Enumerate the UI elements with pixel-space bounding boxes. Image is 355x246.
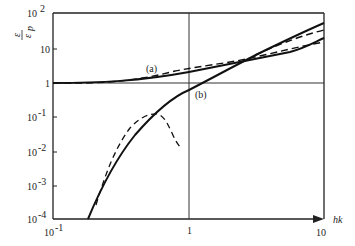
svg-text:2: 2 — [40, 3, 45, 14]
curve-b-dashed-low — [96, 114, 182, 205]
svg-text:-4: -4 — [38, 209, 46, 220]
svg-text:10: 10 — [27, 112, 37, 123]
x-tick-labels: 10 -1 1 10 — [44, 222, 326, 238]
chart: (a) (b) 10 2 10 1 10 -1 10 -2 10 -3 10 -… — [0, 0, 355, 246]
svg-text:10: 10 — [27, 147, 37, 158]
svg-text:10: 10 — [316, 227, 326, 238]
svg-text:10: 10 — [27, 8, 37, 19]
annotation-b: (b) — [195, 89, 207, 101]
svg-text:ε: ε — [11, 33, 22, 37]
annotation-a: (a) — [146, 63, 157, 75]
x-axis-arrow-icon — [313, 215, 324, 223]
x-axis-label: hk — [333, 214, 343, 225]
svg-text:-1: -1 — [38, 107, 46, 118]
svg-text:ε: ε — [22, 34, 33, 38]
svg-text:1: 1 — [187, 225, 192, 236]
svg-text:10: 10 — [27, 181, 37, 192]
svg-text:-2: -2 — [38, 142, 46, 153]
svg-text:-1: -1 — [55, 222, 63, 233]
svg-text:10: 10 — [40, 44, 50, 55]
svg-text:p: p — [24, 26, 35, 32]
svg-text:10: 10 — [27, 214, 37, 225]
svg-text:1: 1 — [45, 78, 50, 89]
y-axis-label: ε ε p — [11, 26, 35, 40]
svg-text:-3: -3 — [38, 176, 46, 187]
svg-text:10: 10 — [44, 227, 54, 238]
